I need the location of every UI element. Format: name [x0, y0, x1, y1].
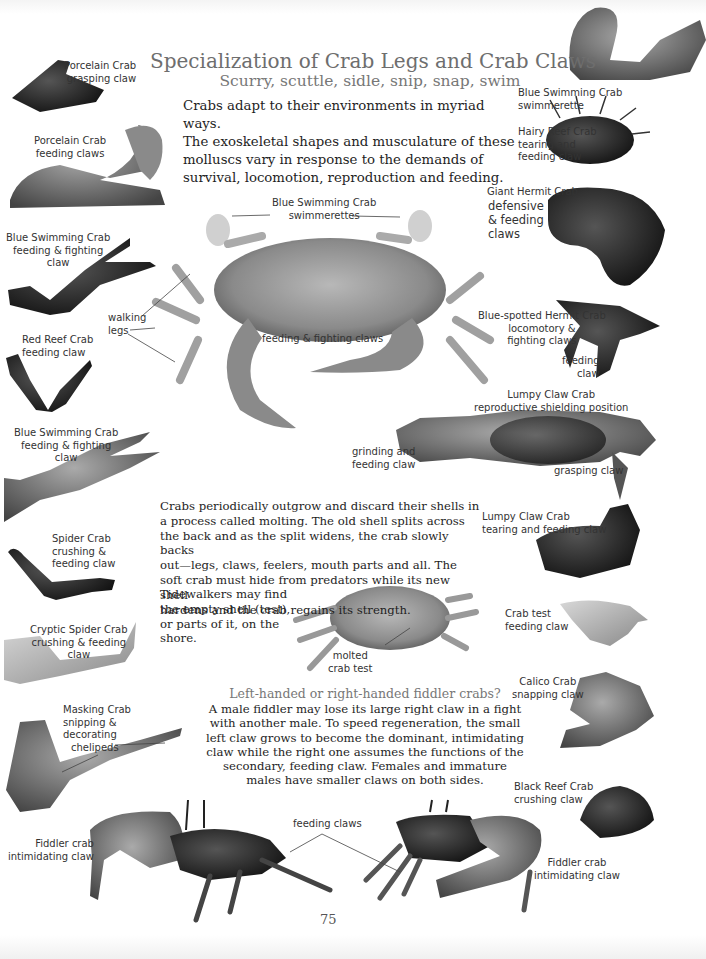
- label-blue-swimming-feeding-1: Blue Swimming Crabfeeding & fightingclaw: [6, 232, 110, 270]
- label-spider-crab: Spider Crabcrushing &feeding claw: [52, 533, 115, 571]
- red-reef-crab-claw-image: [6, 354, 92, 412]
- molting-paragraph-tail: Tidewalkers may find the empty shell (te…: [160, 587, 295, 646]
- label-walking-legs: walkinglegs: [108, 312, 146, 337]
- label-blue-swimmerette: Blue Swimming Crabswimmerette: [518, 87, 622, 112]
- page-title: Specialization of Crab Legs and Crab Cla…: [150, 50, 570, 72]
- label-lumpy-tearing: Lumpy Claw Crabtearing and feeding claw: [482, 511, 606, 536]
- label-crab-test-claw: Crab testfeeding claw: [505, 608, 568, 633]
- label-molted-test: moltedcrab test: [328, 650, 372, 675]
- label-giant-hermit: Giant Hermit Crab: [487, 186, 578, 199]
- label-grinding-claw: grinding andfeeding claw: [352, 446, 415, 471]
- label-blue-spotted-feeding: feedingclaw: [562, 355, 600, 380]
- label-fiddler-right: Fiddler crabintimidating claw: [534, 857, 620, 882]
- label-fiddler-left: Fiddler crabintimidating claw: [8, 838, 94, 863]
- label-porcelain-feeding: Porcelain Crabfeeding claws: [34, 135, 106, 160]
- label-blue-swimming-feeding-2: Blue Swimming Crabfeeding & fightingclaw: [14, 427, 118, 465]
- giant-hermit-crab-claws-image: [548, 188, 665, 286]
- label-feeding-claws: feeding claws: [293, 818, 362, 831]
- label-giant-hermit-desc: defensive& feedingclaws: [488, 199, 544, 241]
- fiddler-paragraph: A male fiddler may lose its large right …: [200, 702, 530, 788]
- label-lumpy-shielding: Lumpy Claw Crabreproductive shielding po…: [474, 389, 628, 414]
- page-number: 75: [320, 912, 337, 927]
- intro-paragraph: Crabs adapt to their environments in myr…: [183, 97, 523, 187]
- label-black-reef: Black Reef Crabcrushing claw: [514, 781, 593, 806]
- label-masking-crab: Masking Crabsnipping &decoratingcheliped…: [63, 704, 131, 754]
- label-blue-spotted-hermit: Blue-spotted Hermit Crablocomotory &figh…: [478, 310, 606, 348]
- fiddler-crab-right-image: [366, 800, 541, 910]
- book-page: Specialization of Crab Legs and Crab Cla…: [0, 0, 706, 959]
- page-subtitle: Scurry, scuttle, sidle, snip, snap, swim: [190, 72, 550, 90]
- label-red-reef: Red Reef Crabfeeding claw: [22, 334, 93, 359]
- crab-test-feeding-claw-image: [560, 600, 648, 646]
- label-center-feeding-fighting: feeding & fighting claws: [262, 333, 383, 346]
- label-center-swimmerettes: Blue Swimming Crabswimmerettes: [272, 197, 376, 222]
- label-calico-crab: Calico Crabsnapping claw: [512, 676, 584, 701]
- label-hairy-reef: Hairy Reef Crabtearing andfeeding claw: [518, 126, 597, 164]
- lumpy-claw-crab-shielding-image: [396, 410, 656, 500]
- fiddler-section-heading: Left-handed or right-handed fiddler crab…: [200, 686, 530, 701]
- label-cryptic-spider-crab: Cryptic Spider Crabcrushing & feedingcla…: [30, 624, 128, 662]
- blue-swimming-crab-center-image: [156, 210, 490, 428]
- label-porcelain-grasping: Porcelain Crabgrasping claw: [64, 60, 136, 85]
- label-grasping-claw: grasping claw: [554, 465, 623, 478]
